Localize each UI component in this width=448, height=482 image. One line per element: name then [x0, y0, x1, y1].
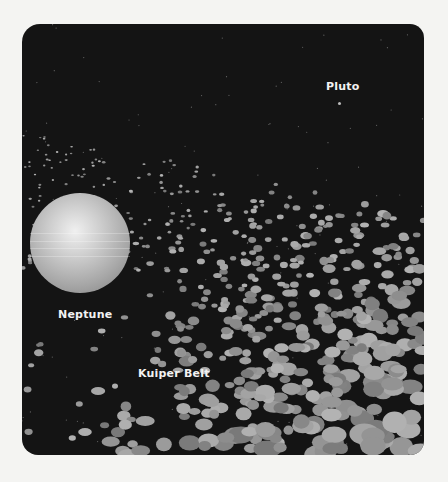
- neptune-planet: [30, 193, 130, 293]
- kuiper-belt-label: Kuiper Belt: [138, 367, 210, 380]
- pluto-label: Pluto: [326, 80, 359, 93]
- neptune-label: Neptune: [58, 308, 112, 321]
- pluto-dot: [338, 102, 341, 105]
- space-illustration: Pluto Neptune Kuiper Belt: [22, 24, 424, 455]
